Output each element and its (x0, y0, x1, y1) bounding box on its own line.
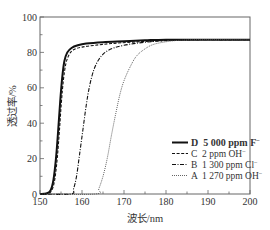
x-tick-label: 200 (243, 196, 258, 207)
x-tick-label: 180 (159, 196, 174, 207)
legend-label: A 1 270 ppm OH− (191, 170, 263, 182)
y-tick-label: 60 (27, 82, 37, 93)
y-tick-label: 0 (32, 189, 37, 200)
legend-label: B 1 300 ppm Cl− (191, 159, 258, 171)
chart-canvas: 150160170180190200020406080100 D 5 000 p… (0, 0, 270, 230)
x-tick-label: 170 (117, 196, 132, 207)
legend-label: C 2 ppm OH− (191, 148, 246, 160)
x-axis-label: 波长/nm (127, 212, 163, 224)
x-tick-label: 160 (75, 196, 90, 207)
y-tick-label: 20 (27, 153, 37, 164)
transmittance-chart: 150160170180190200020406080100 D 5 000 p… (0, 0, 270, 230)
y-axis-label: 透过率/% (6, 85, 18, 127)
legend: D 5 000 ppm F−C 2 ppm OH−B 1 300 ppm Cl−… (172, 137, 263, 182)
y-tick-label: 80 (27, 47, 37, 58)
y-tick-label: 40 (27, 118, 37, 129)
y-tick-label: 100 (22, 12, 37, 23)
x-tick-label: 190 (201, 196, 216, 207)
legend-label: D 5 000 ppm F− (191, 137, 260, 149)
